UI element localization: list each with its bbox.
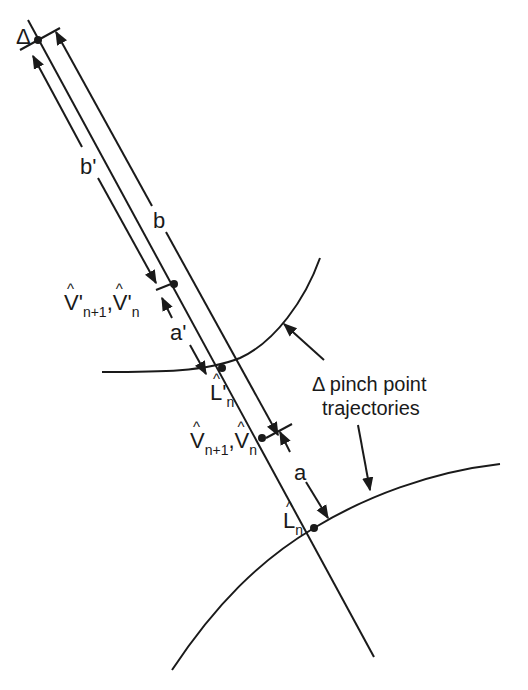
b-prime-label: b' [80,156,96,178]
a-prime-label: a' [170,322,186,344]
l-point [310,524,318,532]
v-pair-label: Vn+1,Vn [190,430,257,452]
v-prime-n1: V' [64,292,83,314]
lower-trajectory [172,464,500,670]
a-dim-upper [280,432,290,452]
annotation-arrow-lower [358,425,370,490]
delta-label: Δ [16,26,31,48]
annotation-line-1: Δ pinch point [312,372,427,396]
a-prime-dim-upper [162,298,172,318]
b-prime-dim-lower [98,178,156,283]
l-prime-label: L'n [210,382,234,404]
v-prime-pair-label: V'n+1,V'n [64,292,139,314]
diagram-lines [0,0,528,690]
operating-line [28,20,374,657]
diagram-canvas: Δ b' b a' a V'n+1,V'n L'n Vn+1,Vn Ln Δ p… [0,0,528,690]
pinch-annotation: Δ pinch point trajectories [312,372,427,420]
v-point [258,434,266,442]
l-label: Ln [283,510,303,532]
v-prime-n: V' [113,292,132,314]
a-label: a [294,462,306,484]
b-label: b [153,210,165,232]
v-tick [266,424,292,438]
delta-point [34,36,42,44]
a-dim-lower [306,482,328,518]
v-prime-point [170,280,178,288]
annotation-line-2: trajectories [312,396,427,420]
annotation-arrow-upper [284,324,324,360]
b-prime-dim-upper [33,56,82,147]
b-dim-upper [56,32,152,206]
